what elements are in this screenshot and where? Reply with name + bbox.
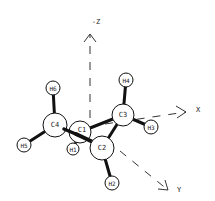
- y-axis-label: Y: [177, 186, 182, 194]
- x-axis-label: X: [196, 106, 201, 114]
- y-axis: Y: [120, 151, 182, 194]
- svg-text:H3: H3: [147, 124, 155, 131]
- svg-text:H1: H1: [69, 146, 77, 153]
- atom-h1: H1: [67, 143, 79, 155]
- svg-text:C4: C4: [51, 121, 59, 129]
- atom-c2: C2: [90, 136, 114, 160]
- atom-c3: C3: [112, 104, 134, 126]
- svg-text:C2: C2: [98, 144, 106, 152]
- svg-text:H5: H5: [20, 142, 28, 149]
- svg-text:H4: H4: [122, 77, 130, 84]
- atom-c4: C4: [43, 113, 67, 137]
- atoms: H6 H4 H5 H3 H1 H2 C3 C1: [17, 73, 158, 190]
- svg-text:C1: C1: [78, 126, 86, 134]
- svg-text:H2: H2: [108, 180, 116, 187]
- atom-h2: H2: [105, 176, 119, 190]
- svg-text:C3: C3: [119, 111, 127, 119]
- atom-h5: H5: [17, 138, 31, 152]
- molecule-diagram: -Z X Y H6 H4: [0, 0, 215, 201]
- atom-h6: H6: [46, 81, 60, 95]
- z-axis: -Z: [84, 18, 100, 118]
- axes: -Z X Y: [84, 18, 201, 194]
- svg-text:H6: H6: [49, 85, 57, 92]
- atom-h4: H4: [119, 73, 133, 87]
- atom-h3: H3: [144, 120, 158, 134]
- z-axis-label: -Z: [92, 18, 100, 26]
